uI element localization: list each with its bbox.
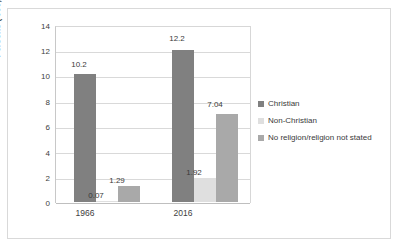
legend-item-no-religion[interactable]: No religion/religion not stated xyxy=(258,134,390,142)
y-tick-label-12: 12 xyxy=(28,47,50,56)
bar-1966-no-religion[interactable] xyxy=(118,186,140,202)
legend-label-non-christian: Non-Christian xyxy=(268,117,317,125)
bar-label-1966-christian: 10.2 xyxy=(60,60,98,69)
y-tick-label-8: 8 xyxy=(28,98,50,107)
bar-1966-christian[interactable] xyxy=(74,74,96,202)
y-tick-label-6: 6 xyxy=(28,123,50,132)
bar-label-2016-no-religion: 7.04 xyxy=(196,100,234,109)
plot-area xyxy=(55,26,251,203)
chart-figure: 14 12 10 8 6 4 2 0 Persons ('000,000s) 1… xyxy=(0,0,399,250)
x-tick-label-2016: 2016 xyxy=(163,208,203,218)
bar-2016-christian[interactable] xyxy=(172,50,194,202)
legend-label-no-religion: No religion/religion not stated xyxy=(268,134,372,142)
legend-item-christian[interactable]: Christian xyxy=(258,100,390,108)
chart-legend: Christian Non-Christian No religion/reli… xyxy=(258,100,390,151)
y-axis-title: Persons ('000,000s) xyxy=(0,0,2,78)
y-tick-label-0: 0 xyxy=(28,199,50,208)
y-tick-label-14: 14 xyxy=(28,22,50,31)
bar-2016-no-religion[interactable] xyxy=(216,114,238,202)
bar-2016-non-christian[interactable] xyxy=(194,178,216,202)
bar-label-1966-non-christian: 0.07 xyxy=(77,191,115,200)
bar-1966-non-christian[interactable] xyxy=(96,201,118,202)
bar-label-2016-non-christian: 1.92 xyxy=(175,168,213,177)
gridline-0 xyxy=(56,203,250,204)
y-tick-label-2: 2 xyxy=(28,174,50,183)
y-tick-label-10: 10 xyxy=(28,72,50,81)
legend-label-christian: Christian xyxy=(268,100,300,108)
legend-swatch-icon-no-religion xyxy=(258,135,264,141)
gridline-12 xyxy=(56,52,250,53)
y-tick-label-4: 4 xyxy=(28,149,50,158)
bar-label-1966-no-religion: 1.29 xyxy=(98,176,136,185)
bar-label-2016-christian: 12.2 xyxy=(158,34,196,43)
x-tick-label-1966: 1966 xyxy=(65,208,105,218)
legend-swatch-icon-non-christian xyxy=(258,118,264,124)
legend-item-non-christian[interactable]: Non-Christian xyxy=(258,117,390,125)
legend-swatch-icon-christian xyxy=(258,101,264,107)
